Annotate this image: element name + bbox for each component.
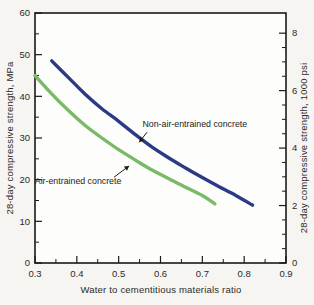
y-left-tick-label: 50: [19, 49, 30, 60]
plot-area: [35, 13, 286, 263]
y-left-tick-label: 60: [19, 7, 30, 18]
y-left-tick-label: 20: [19, 174, 30, 185]
concrete-strength-figure: 0.30.40.50.60.70.80.9010203040506002468 …: [0, 0, 314, 305]
y-right-tick-label: 2: [292, 200, 297, 211]
x-tick-label: 0.4: [70, 268, 83, 279]
x-tick-label: 0.5: [112, 268, 125, 279]
y-left-tick-label: 40: [19, 91, 30, 102]
air-entrained-label: Air-entrained concrete: [35, 176, 122, 186]
y-left-tick-label: 10: [19, 216, 30, 227]
y-right-tick-label: 4: [292, 142, 297, 153]
x-tick-label: 0.9: [279, 268, 292, 279]
y-left-tick-label: 30: [19, 132, 30, 143]
x-tick-label: 0.7: [196, 268, 209, 279]
y-right-tick-label: 6: [292, 85, 297, 96]
x-tick-label: 0.3: [28, 268, 41, 279]
non-air-entrained-label: Non-air-entrained concrete: [142, 119, 247, 129]
x-tick-label: 0.6: [154, 268, 167, 279]
y-axis-right-title: 28-day compressive strength, 1000 psi: [298, 63, 309, 234]
strength-vs-ratio-chart: 0.30.40.50.60.70.80.9010203040506002468: [0, 0, 314, 305]
y-right-tick-label: 8: [292, 27, 297, 38]
y-right-tick-label: 0: [292, 257, 297, 268]
x-axis-title: Water to cementitious materials ratio: [80, 284, 241, 295]
y-axis-left-title: 28-day compressive strength, MPa: [4, 61, 15, 214]
x-tick-label: 0.8: [238, 268, 251, 279]
y-left-tick-label: 0: [25, 257, 30, 268]
